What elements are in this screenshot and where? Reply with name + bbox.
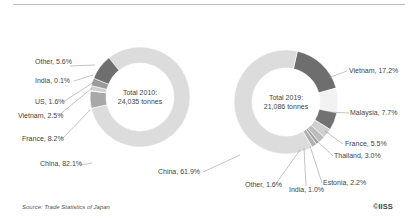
center-label: Total 2010: [123,89,157,96]
segment-label: France, 8.2% [22,135,64,142]
segment-label: India, 1.0% [289,186,324,193]
segment-label: US, 1.6% [35,98,65,105]
leader-line [203,155,240,172]
leader-line [275,150,300,185]
leader-line [62,110,90,139]
leader-line [70,65,95,66]
center-label: 21,086 tonnes [264,103,309,110]
segment-label: India, 0.1% [35,77,70,84]
segment-label: France, 5.5% [345,140,387,147]
leader-line [310,146,322,183]
leader-line [325,131,343,144]
leader-line [328,71,347,78]
segment-label: Other, 5.6% [35,58,72,65]
segment-label: China, 61.9% [158,168,200,175]
segment-label: Other, 1.6% [245,181,282,188]
donut-segment-malaysia [319,88,338,113]
donut-chart-1: Total 2010:24,035 tonnesChina, 82.1%Othe… [18,47,190,167]
segment-label: Estonia, 2.2% [323,179,366,186]
leader-line [304,148,306,186]
segment-label: Thailand, 3.0% [334,152,381,159]
segment-label: Malaysia, 7.7% [350,109,397,117]
donut-charts: Total 2010:24,035 tonnesChina, 82.1%Othe… [0,0,416,223]
donut-segment-vietnam [293,51,336,93]
leader-line [316,140,333,156]
source-note: Source: Trade Statistics of Japan [22,204,110,210]
credit-logo: ©IISS [373,202,393,211]
segment-label: China, 82.1% [40,160,82,167]
leader-line [74,75,93,81]
center-label: 24,035 tonnes [118,98,163,105]
segment-label: Vietnam, 17.2% [349,67,398,74]
center-label: Total 2019: [269,94,303,101]
donut-chart-2: Total 2019:21,086 tonnesVietnam, 17.2%Ma… [158,50,398,193]
segment-label: Vietnam, 2.5% [18,112,63,119]
